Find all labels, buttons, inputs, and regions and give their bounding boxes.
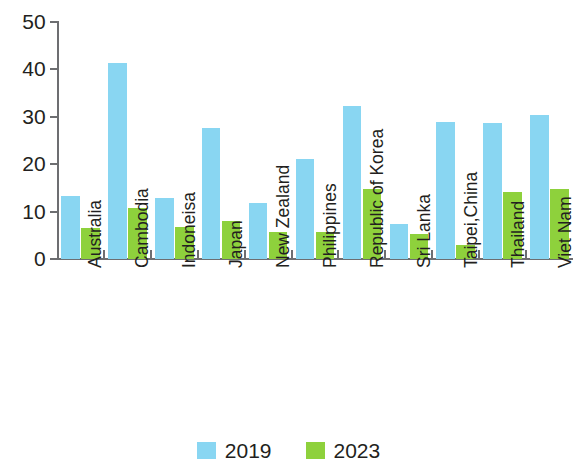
bar-2019 — [483, 123, 502, 259]
y-axis-tick-label: 20 — [6, 153, 46, 174]
x-axis-category-label: Philippines — [322, 183, 340, 268]
bar-chart: 50403020100 AustraliaCambodiaIndoneisaJa… — [0, 0, 577, 466]
bar-2019 — [296, 159, 315, 259]
x-axis-category-label: Japan — [228, 220, 246, 268]
bar-2019 — [249, 203, 268, 259]
y-axis-tick-label: 0 — [6, 248, 46, 269]
bar-2019 — [436, 122, 455, 259]
legend-swatch-icon — [197, 442, 216, 459]
y-axis-tick — [50, 68, 59, 70]
legend-swatch-icon — [306, 442, 325, 459]
y-axis-labels: 50403020100 — [0, 0, 46, 290]
x-axis-category-label: Indoneisa — [181, 192, 199, 268]
x-axis-category-label: Australia — [87, 200, 105, 268]
x-axis-category-label: Republic of Korea — [369, 129, 387, 268]
x-axis-category-label: Thailand — [510, 201, 528, 268]
bar-2019 — [202, 128, 221, 259]
x-axis-category-label: Taipei,China — [463, 172, 481, 268]
y-axis-tick — [50, 21, 59, 23]
bar-2019 — [155, 198, 174, 259]
bar-2019 — [108, 63, 127, 259]
chart-legend: 20192023 — [0, 440, 577, 461]
y-axis-tick — [50, 116, 59, 118]
y-axis-tick-label: 10 — [6, 201, 46, 222]
y-axis-tick — [50, 211, 59, 213]
y-axis-tick-label: 40 — [6, 58, 46, 79]
bar-2019 — [343, 106, 362, 259]
y-axis-tick — [50, 163, 59, 165]
y-axis-tick — [50, 258, 59, 260]
legend-label: 2019 — [225, 440, 272, 461]
x-axis-category-label: Sri Lanka — [416, 194, 434, 268]
x-axis-category-label: New Zealand — [275, 165, 293, 268]
x-axis-category-label: Viet Nam — [557, 196, 575, 268]
y-axis-tick-label: 30 — [6, 106, 46, 127]
legend-item-2023: 2023 — [306, 440, 381, 461]
bar-2019 — [390, 224, 409, 259]
y-axis-tick-label: 50 — [6, 11, 46, 32]
bar-2019 — [61, 196, 80, 259]
bar-2019 — [530, 115, 549, 259]
x-axis-category-label: Cambodia — [134, 188, 152, 268]
legend-label: 2023 — [334, 440, 381, 461]
legend-item-2019: 2019 — [197, 440, 272, 461]
